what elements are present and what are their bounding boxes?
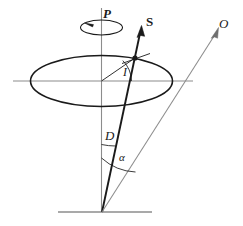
observer-vector-group xyxy=(102,28,219,213)
intersection-marker xyxy=(132,55,137,60)
spin-vector-group xyxy=(102,26,145,213)
spin-vector-arrowhead-icon xyxy=(137,26,145,38)
angle-arc-D xyxy=(102,145,116,147)
figure-canvas: P S O I D α xyxy=(0,0,243,226)
precession-arrowhead-icon xyxy=(85,23,94,27)
diagram-svg xyxy=(0,0,243,226)
observer-vector-arrowhead-icon xyxy=(211,28,218,39)
label-axis-tilt-angle: D xyxy=(105,129,114,142)
reference-axes xyxy=(13,8,193,212)
label-aspect-angle: α xyxy=(119,152,125,163)
label-inclination-angle: I xyxy=(123,66,127,78)
label-observer: O xyxy=(219,17,228,30)
observer-vector-line xyxy=(102,33,216,212)
label-spin-vector: S xyxy=(146,15,153,28)
label-precession: P xyxy=(103,7,111,20)
